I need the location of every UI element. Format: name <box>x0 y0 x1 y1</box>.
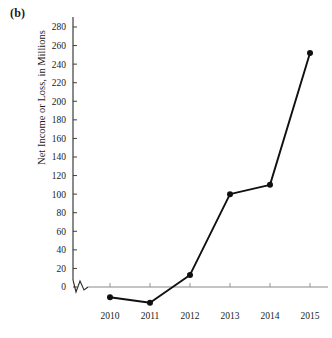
x-tick-label: 2010 <box>101 311 120 321</box>
x-axis-ticks: 201020112012201320142015 <box>101 283 320 321</box>
data-point-marker <box>267 182 273 188</box>
axis-break-icon <box>73 280 88 292</box>
y-tick-label: 180 <box>52 115 67 125</box>
y-tick-label: 200 <box>52 97 67 107</box>
x-tick-label: 2013 <box>221 311 240 321</box>
y-tick-label: 100 <box>52 190 67 200</box>
y-tick-label: 20 <box>57 264 67 274</box>
line-chart-plot: 020406080100120140160180200220240260280 … <box>0 0 332 338</box>
data-point-marker <box>307 50 313 56</box>
data-point-marker <box>147 300 153 306</box>
y-tick-label: 240 <box>52 60 67 70</box>
y-tick-label: 140 <box>52 152 67 162</box>
y-tick-label: 220 <box>52 78 67 88</box>
y-tick-label: 120 <box>52 171 67 181</box>
x-tick-label: 2014 <box>261 311 280 321</box>
data-point-markers <box>107 50 313 306</box>
y-tick-label: 80 <box>57 208 67 218</box>
y-tick-label: 160 <box>52 134 67 144</box>
y-tick-label: 0 <box>61 282 66 292</box>
x-tick-label: 2012 <box>181 311 200 321</box>
data-point-marker <box>227 191 233 197</box>
y-tick-label: 260 <box>52 41 67 51</box>
x-tick-label: 2011 <box>141 311 160 321</box>
y-tick-label: 40 <box>57 245 67 255</box>
y-tick-label: 280 <box>52 22 67 32</box>
data-point-marker <box>107 294 113 300</box>
y-tick-label: 60 <box>57 227 67 237</box>
data-series-line <box>110 53 310 303</box>
data-point-marker <box>187 272 193 278</box>
figure-container: (b) Net Income or Loss, in Millions 0204… <box>0 0 332 338</box>
x-tick-label: 2015 <box>301 311 320 321</box>
